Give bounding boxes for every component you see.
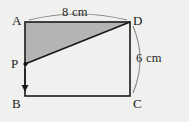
geometry-figure: A B C D P 8 cm 6 cm <box>0 0 189 122</box>
point-P-marker <box>23 62 27 66</box>
vertex-label-P: P <box>11 57 18 70</box>
vertex-label-C: C <box>133 97 142 110</box>
vertex-label-A: A <box>12 14 21 27</box>
width-dimension-label: 8 cm <box>62 6 88 19</box>
downward-motion-arrow <box>22 69 29 92</box>
vertex-label-D: D <box>133 14 142 27</box>
vertex-label-B: B <box>12 97 21 110</box>
height-dimension-label: 6 cm <box>136 52 162 65</box>
